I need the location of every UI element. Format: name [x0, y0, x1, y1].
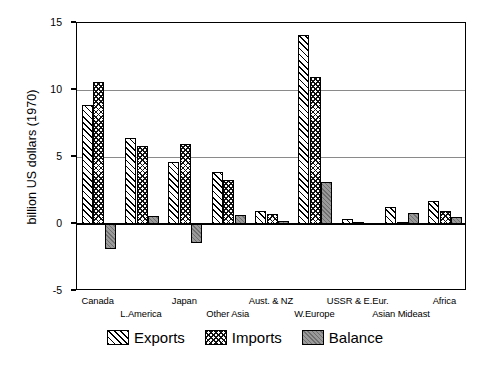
bar-imports-0: [93, 82, 104, 224]
legend-swatch-exports: [107, 330, 129, 345]
plot-area: [76, 22, 466, 290]
bar-balance-7: [408, 213, 419, 224]
bar-exports-3: [212, 172, 223, 224]
bar-imports-1: [137, 146, 148, 224]
y-tick-label: 15: [10, 17, 62, 27]
x-tick-label: Africa: [433, 295, 456, 306]
bar-imports-8: [440, 211, 451, 224]
bar-imports-6: [353, 222, 364, 224]
bar-exports-4: [255, 211, 266, 224]
legend-label: Imports: [232, 330, 282, 345]
bar-imports-4: [267, 214, 278, 224]
bar-balance-8: [451, 217, 462, 224]
chart-legend: ExportsImportsBalance: [0, 330, 490, 345]
legend-item-imports: Imports: [205, 330, 282, 345]
x-tick-label: Aust. & NZ: [249, 295, 293, 306]
bar-exports-5: [298, 35, 309, 224]
y-tick-label: 0: [10, 218, 62, 228]
bar-balance-0: [105, 224, 116, 249]
bar-exports-6: [342, 219, 353, 224]
legend-swatch-imports: [205, 330, 227, 345]
bar-chart: billion US dollars (1970) 151050-5 Canad…: [0, 0, 490, 365]
x-tick-label: Canada: [82, 295, 114, 306]
x-tick-label: Asian Mideast: [372, 308, 430, 319]
x-axis-labels: CanadaL.AmericaJapanOther AsiaAust. & NZ…: [0, 292, 490, 326]
y-tick-label: 10: [10, 84, 62, 94]
legend-swatch-balance: [302, 330, 324, 345]
bar-exports-0: [82, 105, 93, 224]
bar-balance-3: [235, 215, 246, 224]
bar-imports-2: [180, 144, 191, 224]
bar-balance-2: [191, 224, 202, 243]
y-tick-label: 5: [10, 151, 62, 161]
bar-imports-5: [310, 77, 321, 224]
x-tick-label: W.Europe: [294, 308, 334, 319]
legend-item-exports: Exports: [107, 330, 185, 345]
legend-label: Balance: [329, 330, 383, 345]
bar-exports-8: [428, 201, 439, 224]
bar-exports-1: [125, 138, 136, 224]
bar-imports-7: [397, 222, 408, 224]
x-tick-label: L.America: [120, 308, 161, 319]
bar-balance-6: [365, 223, 376, 225]
bar-balance-5: [321, 182, 332, 224]
x-tick-label: USSR & E.Eur.: [327, 295, 389, 306]
x-tick-label: Japan: [172, 295, 197, 306]
bar-balance-1: [148, 216, 159, 224]
legend-item-balance: Balance: [302, 330, 383, 345]
bar-balance-4: [278, 221, 289, 224]
bar-exports-2: [168, 162, 179, 224]
bar-exports-7: [385, 207, 396, 224]
gridline: [77, 90, 465, 91]
legend-label: Exports: [134, 330, 185, 345]
x-tick-label: Other Asia: [206, 308, 249, 319]
bar-imports-3: [223, 180, 234, 224]
